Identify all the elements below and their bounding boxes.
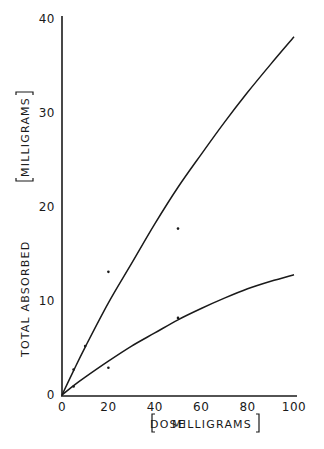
- x-tick-label: 0: [58, 400, 66, 414]
- y-tick-label: 20: [39, 200, 55, 214]
- y-axis-unit: MILLIGRAMS: [19, 97, 32, 177]
- x-tick-label: 40: [147, 400, 163, 414]
- y-tick-label: 40: [39, 12, 55, 26]
- x-axis-unit-text: MILLIGRAMS: [172, 418, 252, 431]
- fitted-curve: [62, 37, 294, 395]
- y-axis: 010203040: [39, 12, 62, 402]
- x-axis: 020406080100: [58, 396, 306, 414]
- x-tick-label: 80: [239, 400, 255, 414]
- data-point: [72, 368, 75, 371]
- data-point: [177, 227, 180, 230]
- y-tick-label: 0: [47, 388, 55, 402]
- data-point: [107, 366, 110, 369]
- y-tick-labels: 010203040: [39, 12, 55, 402]
- x-tick-label: 20: [100, 400, 116, 414]
- x-tick-label: 100: [282, 400, 306, 414]
- x-tick-label: 60: [193, 400, 209, 414]
- data-point: [177, 317, 180, 320]
- y-axis-title-main: TOTAL ABSORBED: [19, 241, 32, 358]
- curves: [62, 37, 294, 395]
- y-tick-label: 10: [39, 294, 55, 308]
- x-tick-labels: 020406080100: [58, 400, 306, 414]
- data-point: [72, 385, 75, 388]
- data-points: [72, 227, 179, 388]
- x-axis-unit: MILLIGRAMS: [172, 418, 252, 431]
- data-point: [84, 345, 87, 348]
- y-axis-title: TOTAL ABSORBED: [19, 241, 32, 358]
- data-point: [107, 271, 110, 274]
- y-axis-title-group: TOTAL ABSORBED MILLIGRAMS: [16, 92, 33, 358]
- dose-absorption-chart: 010203040 020406080100 DOSE MILLIGRAMS T…: [0, 0, 324, 449]
- y-tick-label: 30: [39, 106, 55, 120]
- fitted-curve: [62, 275, 294, 395]
- y-axis-unit-text: MILLIGRAMS: [19, 97, 32, 177]
